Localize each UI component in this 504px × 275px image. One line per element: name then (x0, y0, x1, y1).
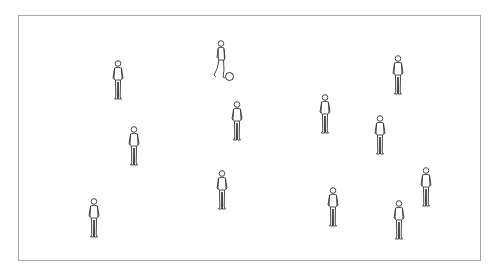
player-figure (372, 115, 388, 155)
player-figure (325, 187, 341, 227)
player-figure (126, 126, 142, 166)
standing-player-icon (126, 126, 142, 166)
player-figure (391, 200, 407, 240)
standing-player-icon (372, 115, 388, 155)
player-figure (317, 94, 333, 134)
player-figure (229, 101, 245, 141)
player-figure (86, 198, 102, 238)
standing-player-icon (317, 94, 333, 134)
player-figure (418, 167, 434, 207)
standing-player-icon (214, 170, 230, 210)
standing-player-icon (418, 167, 434, 207)
standing-player-icon (229, 101, 245, 141)
standing-player-icon (110, 60, 126, 100)
soccer-ball-icon (225, 72, 234, 81)
standing-player-icon (325, 187, 341, 227)
player-figure (214, 170, 230, 210)
player-figure (390, 55, 406, 95)
standing-player-icon (390, 55, 406, 95)
player-figure (110, 60, 126, 100)
standing-player-icon (86, 198, 102, 238)
standing-player-icon (391, 200, 407, 240)
